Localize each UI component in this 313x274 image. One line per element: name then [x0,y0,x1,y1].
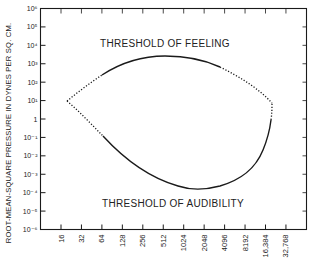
y-tick-label: 10¹ [27,97,38,104]
y-tick-label: 10⁻⁶ [23,226,38,233]
x-tick-label: 512 [159,235,168,248]
x-tick-label: 8192 [241,235,250,252]
y-tick-label: 10⁵ [27,23,38,30]
x-tick-label: 16,384 [261,235,270,258]
x-tick-label: 32 [77,235,86,243]
y-tick-label: 1 [34,116,38,123]
y-tick-label: 10⁻² [23,152,38,159]
x-tick-label: 2048 [200,235,209,252]
y-tick-label: 10⁶ [27,5,38,12]
x-tick-label: 64 [97,235,106,243]
threshold-of-feeling-curve [67,56,272,103]
x-tick-label: 256 [138,235,147,248]
y-tick-label: 10⁴ [27,42,38,49]
threshold-chart: ROOT-MEAN-SQUARE PRESSURE IN DYNES PER S… [0,0,313,274]
y-tick-label: 10³ [27,60,38,67]
x-tick-label: 128 [118,235,127,248]
label-threshold-of-feeling: THRESHOLD OF FEELING [100,38,230,49]
y-axis-title: ROOT-MEAN-SQUARE PRESSURE IN DYNES PER S… [4,23,13,244]
y-tick-label: 10⁻³ [23,171,38,178]
x-tick-label: 4096 [220,235,229,252]
y-tick-label: 10⁻⁴ [23,189,38,196]
y-tick-label: 10² [27,79,38,86]
y-tick-label: 10⁻⁵ [23,208,38,215]
x-tick-label: 32,768 [281,235,290,258]
label-threshold-of-audibility: THRESHOLD OF AUDIBILITY [102,198,244,209]
y-tick-label: 10⁻¹ [23,134,38,141]
x-tick-label: 1024 [179,235,188,252]
threshold-of-audibility-curve [67,101,272,189]
x-tick-label: 16 [57,235,66,243]
